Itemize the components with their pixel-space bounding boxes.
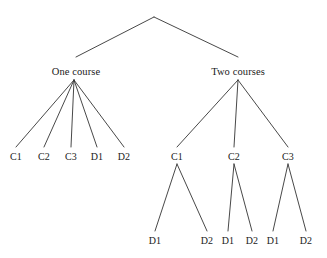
tree-edge [228,164,234,231]
tree-node-one-d2: D2 [118,151,130,162]
tree-node-two-c3-d2: D2 [300,235,312,246]
tree-edge [273,164,288,231]
tree-edge [177,164,207,231]
tree-edge [44,80,74,147]
tree-node-one-c1: C1 [10,151,22,162]
tree-edge [288,164,306,231]
tree-node-two-c2: C2 [228,151,240,162]
tree-node-two-c2-d1: D1 [222,235,234,246]
tree-diagram: One courseTwo coursesC1C2C3D1D2C1C2C3D1D… [0,0,327,258]
tree-node-two-c1-d1: D1 [149,235,161,246]
tree-node-two-c3: C3 [282,151,294,162]
tree-node-two-c2-d2: D2 [246,235,258,246]
tree-edge [177,80,238,147]
tree-node-one-c2: C2 [38,151,50,162]
tree-edge [155,164,177,231]
tree-node-two-c3-d1: D1 [267,235,279,246]
tree-node-one-d1: D1 [91,151,103,162]
tree-edge [74,80,97,147]
tree-edge [238,80,288,147]
tree-edge [74,80,124,147]
tree-node-one-course: One course [52,66,101,77]
tree-edge [154,17,238,57]
edge-group [16,17,306,231]
tree-edges-layer [0,0,327,258]
tree-edge [234,164,252,231]
tree-edge [16,80,74,147]
tree-node-one-c3: C3 [65,151,77,162]
tree-node-two-courses: Two courses [211,66,265,77]
tree-edge [234,80,238,147]
tree-node-two-c1: C1 [171,151,183,162]
tree-edge [76,17,154,57]
tree-node-two-c1-d2: D2 [201,235,213,246]
tree-edge [71,80,74,147]
